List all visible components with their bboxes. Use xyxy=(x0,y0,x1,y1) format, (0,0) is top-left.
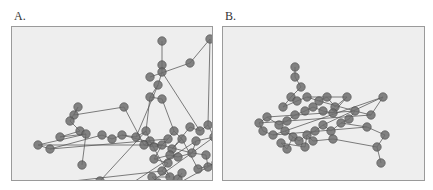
graph-node xyxy=(329,135,337,143)
panel-a-label: A. xyxy=(14,9,26,24)
graph-node xyxy=(150,143,158,151)
graph-node xyxy=(337,119,345,127)
graph-node xyxy=(188,149,196,157)
network-graph-a xyxy=(11,26,213,181)
graph-node xyxy=(46,145,54,153)
graph-b-canvas xyxy=(223,27,425,181)
graph-node xyxy=(351,107,359,115)
graph-node xyxy=(98,131,106,139)
graph-node xyxy=(281,127,289,135)
graph-node xyxy=(74,103,82,111)
graph-node xyxy=(132,133,140,141)
graph-node xyxy=(279,103,287,111)
graph-node xyxy=(78,161,86,169)
graph-node xyxy=(66,117,74,125)
graph-node xyxy=(345,115,353,123)
network-graph-b xyxy=(222,26,425,181)
graph-node xyxy=(259,127,267,135)
graph-edge xyxy=(146,97,150,131)
graph-node xyxy=(56,133,64,141)
graph-edge xyxy=(162,99,174,131)
graph-node xyxy=(186,59,194,67)
graph-node xyxy=(377,159,385,167)
graph-node xyxy=(277,139,285,147)
graph-node xyxy=(283,117,291,125)
graph-node xyxy=(263,113,271,121)
graph-node xyxy=(381,131,389,139)
graph-node xyxy=(178,169,186,177)
graph-node xyxy=(146,73,154,81)
graph-node xyxy=(166,151,174,159)
graph-node xyxy=(204,121,212,129)
graph-node xyxy=(194,165,202,173)
panel-b-label: B. xyxy=(225,9,236,24)
graph-node xyxy=(206,35,213,43)
graph-node xyxy=(196,127,204,135)
graph-node xyxy=(269,131,277,139)
graph-node xyxy=(164,159,172,167)
graph-node xyxy=(158,68,166,76)
graph-node xyxy=(178,135,186,143)
graph-node xyxy=(301,107,309,115)
graph-node xyxy=(293,97,301,105)
graph-node xyxy=(319,121,327,129)
graph-node xyxy=(34,141,42,149)
graph-node xyxy=(291,63,299,71)
graph-edge xyxy=(20,171,162,181)
graph-node xyxy=(291,73,299,81)
graph-node xyxy=(82,130,90,138)
graph-node xyxy=(343,93,351,101)
graph-node xyxy=(158,37,166,45)
graph-node xyxy=(140,141,148,149)
graph-edge xyxy=(208,39,210,125)
graph-node xyxy=(323,93,331,101)
graph-node xyxy=(202,151,210,159)
graph-node xyxy=(118,131,126,139)
graph-node xyxy=(379,93,387,101)
graph-edge xyxy=(190,39,210,63)
graph-node xyxy=(164,135,172,143)
graph-node xyxy=(154,81,162,89)
graph-node xyxy=(186,123,194,131)
graph-node xyxy=(301,143,309,151)
graph-node xyxy=(363,123,371,131)
graph-edge xyxy=(82,134,86,165)
graph-node xyxy=(255,119,263,127)
graph-node xyxy=(158,167,166,175)
graph-node xyxy=(204,163,212,171)
graph-node xyxy=(174,153,182,161)
graph-a-canvas xyxy=(12,27,213,181)
graph-node xyxy=(291,111,299,119)
graph-node xyxy=(150,155,158,163)
graph-node xyxy=(142,127,150,135)
graph-edge xyxy=(333,139,377,147)
graph-node xyxy=(309,103,317,111)
graph-node xyxy=(146,93,154,101)
graph-node xyxy=(297,83,305,91)
graph-edge xyxy=(162,72,200,131)
graph-node xyxy=(158,95,166,103)
graph-node xyxy=(166,173,174,181)
graph-node xyxy=(319,107,327,115)
graph-node xyxy=(311,127,319,135)
graph-node xyxy=(373,143,381,151)
graph-node xyxy=(309,137,317,145)
graph-node xyxy=(108,135,116,143)
graph-node xyxy=(170,127,178,135)
graph-node xyxy=(367,111,375,119)
graph-node xyxy=(192,137,200,145)
graph-edge xyxy=(150,63,190,77)
graph-node xyxy=(120,103,128,111)
graph-node xyxy=(329,109,337,117)
graph-node xyxy=(303,93,311,101)
graph-node xyxy=(327,127,335,135)
